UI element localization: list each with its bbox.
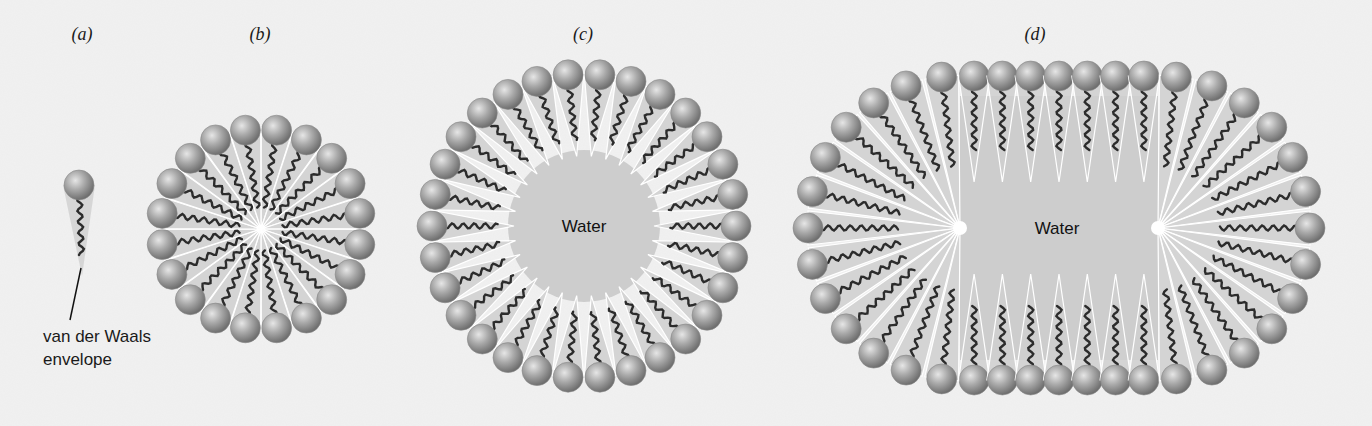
polar-head-group: [718, 179, 748, 209]
polar-head-group: [1229, 88, 1259, 118]
annotation-vdw-line1: van der Waals: [43, 327, 151, 346]
polar-head-group: [345, 230, 375, 260]
polar-head-group: [810, 142, 840, 172]
polar-head-group: [430, 149, 460, 179]
polar-head-group: [927, 364, 957, 394]
polar-head-group: [1291, 177, 1321, 207]
polar-head-group: [467, 98, 497, 128]
panel-label-d: (d): [1025, 24, 1046, 45]
polar-head-group: [959, 61, 989, 91]
polar-head-group: [493, 79, 523, 109]
polar-head-group: [891, 355, 921, 385]
polar-head-group: [1257, 112, 1287, 142]
polar-head-group: [1295, 213, 1325, 243]
polar-head-group: [1016, 61, 1046, 91]
polar-head-group: [467, 324, 497, 354]
polar-head-group: [291, 125, 321, 155]
polar-head-group: [417, 211, 447, 241]
polar-head-group: [430, 273, 460, 303]
polar-head-group: [201, 125, 231, 155]
polar-head-group: [1072, 61, 1102, 91]
polar-head-group: [553, 362, 583, 392]
polar-head-group: [201, 303, 231, 333]
panel-label-a: (a): [72, 24, 93, 45]
polar-head-group: [616, 66, 646, 96]
lipid-aggregate-figure: (a) (b) (c) (d) Water Water van der Waal…: [0, 0, 1372, 426]
polar-head-group: [522, 66, 552, 96]
polar-head-group: [891, 71, 921, 101]
polar-head-group: [797, 249, 827, 279]
polar-head-group: [1101, 61, 1131, 91]
polar-head-group: [692, 122, 722, 152]
polar-head-group: [446, 300, 476, 330]
water-label-d: Water: [1035, 219, 1080, 238]
polar-head-group: [1129, 365, 1159, 395]
polar-head-group: [1278, 142, 1308, 172]
polar-head-group: [1101, 365, 1131, 395]
polar-head-group: [420, 243, 450, 273]
polar-head-group: [1197, 71, 1227, 101]
polar-head-group: [230, 115, 260, 145]
polar-head-group: [1278, 284, 1308, 314]
polar-head-group: [317, 285, 347, 315]
polar-head-group: [493, 343, 523, 373]
polar-head-group: [927, 62, 957, 92]
polar-head-group: [553, 60, 583, 90]
polar-head-group: [585, 60, 615, 90]
water-label-c: Water: [562, 217, 607, 236]
polar-head-group: [831, 112, 861, 142]
polar-head-group: [645, 79, 675, 109]
polar-head-group: [987, 365, 1017, 395]
polar-head-group: [987, 61, 1017, 91]
polar-head-group: [1161, 62, 1191, 92]
polar-head-group: [721, 211, 751, 241]
polar-head-group: [859, 338, 889, 368]
polar-head-group: [959, 365, 989, 395]
polar-head-group: [616, 356, 646, 386]
polar-head-group: [671, 98, 701, 128]
polar-head-group: [1129, 61, 1159, 91]
polar-head-group: [718, 243, 748, 273]
panel-label-b: (b): [250, 24, 271, 45]
polar-head-group: [64, 170, 94, 200]
fan-vertex-right: [1151, 221, 1165, 235]
polar-head-group: [585, 362, 615, 392]
polar-head-group: [147, 198, 177, 228]
polar-head-group: [645, 343, 675, 373]
polar-head-group: [1161, 364, 1191, 394]
polar-head-group: [1291, 249, 1321, 279]
polar-head-group: [157, 169, 187, 199]
polar-head-group: [147, 230, 177, 260]
polar-head-group: [1044, 61, 1074, 91]
polar-head-group: [859, 88, 889, 118]
polar-head-group: [671, 324, 701, 354]
polar-head-group: [1016, 365, 1046, 395]
polar-head-group: [1197, 355, 1227, 385]
polar-head-group: [262, 313, 292, 343]
polar-head-group: [175, 143, 205, 173]
polar-head-group: [230, 313, 260, 343]
panel-label-c: (c): [573, 24, 593, 45]
polar-head-group: [291, 303, 321, 333]
polar-head-group: [522, 356, 552, 386]
polar-head-group: [708, 149, 738, 179]
polar-head-group: [1257, 314, 1287, 344]
polar-head-group: [345, 198, 375, 228]
polar-head-group: [335, 259, 365, 289]
polar-head-group: [793, 213, 823, 243]
polar-head-group: [446, 122, 476, 152]
polar-head-group: [831, 314, 861, 344]
polar-head-group: [262, 115, 292, 145]
polar-head-group: [708, 273, 738, 303]
polar-head-group: [175, 285, 205, 315]
annotation-vdw-line2: envelope: [43, 350, 112, 369]
polar-head-group: [157, 259, 187, 289]
polar-head-group: [420, 179, 450, 209]
polar-head-group: [335, 169, 365, 199]
panel-b-micelle: [147, 115, 375, 343]
fan-vertex-left: [953, 221, 967, 235]
polar-head-group: [692, 300, 722, 330]
polar-head-group: [1072, 365, 1102, 395]
polar-head-group: [797, 177, 827, 207]
polar-head-group: [1044, 365, 1074, 395]
